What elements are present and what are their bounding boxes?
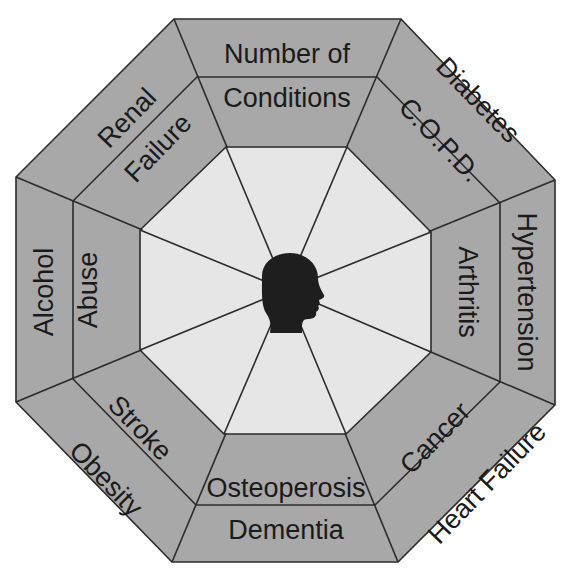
label-alcohol: Alcohol xyxy=(29,248,59,337)
label-abuse: Abuse xyxy=(73,252,103,329)
label-arthritis: Arthritis xyxy=(453,246,483,338)
label-dementia: Dementia xyxy=(228,515,345,545)
label-hypertension: Hypertension xyxy=(512,212,542,371)
label-conditions: Conditions xyxy=(223,83,351,113)
label-osteoperosis: Osteoperosis xyxy=(206,473,365,503)
comorbidity-octagon-diagram: Number of Conditions Diabetes C.O.P.D. H… xyxy=(0,0,572,580)
label-number-of: Number of xyxy=(224,39,351,69)
